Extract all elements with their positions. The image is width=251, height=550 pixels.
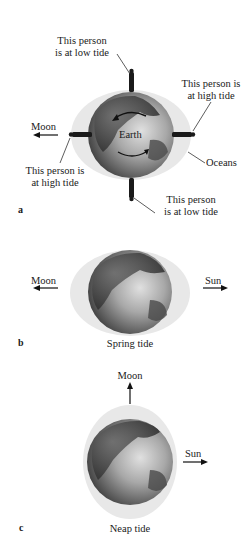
label-line: This person is bbox=[176, 78, 246, 90]
panel-b-diagram bbox=[33, 250, 228, 336]
label-line: This person bbox=[52, 35, 112, 47]
label-line: This person bbox=[160, 194, 222, 206]
oceans-label: Oceans bbox=[206, 157, 237, 169]
earth-label: Earth bbox=[119, 129, 142, 141]
person-right bbox=[172, 132, 195, 137]
caption-neap-tide: Neap tide bbox=[95, 523, 165, 535]
label-line: at high tide bbox=[176, 90, 246, 102]
person-left bbox=[69, 132, 92, 137]
bottom-person-label: This person is at low tide bbox=[160, 194, 222, 217]
person-top bbox=[129, 69, 134, 92]
label-line: is at low tide bbox=[160, 206, 222, 218]
person-bottom bbox=[129, 178, 134, 201]
label-line: at high tide bbox=[20, 177, 90, 189]
left-person-label: This person is at high tide bbox=[20, 165, 90, 188]
right-person-label: This person is at high tide bbox=[176, 78, 246, 101]
panel-letter-a: a bbox=[18, 204, 23, 215]
moon-label-b: Moon bbox=[31, 275, 56, 287]
panel-letter-b: b bbox=[18, 337, 24, 348]
moon-label-c: Moon bbox=[110, 370, 150, 382]
label-line: This person is bbox=[20, 165, 90, 177]
sun-label-c: Sun bbox=[185, 448, 201, 460]
moon-label-a: Moon bbox=[31, 121, 56, 133]
sun-label-b: Sun bbox=[205, 275, 221, 287]
panel-letter-c: c bbox=[19, 522, 23, 533]
caption-spring-tide: Spring tide bbox=[95, 338, 165, 350]
top-person-label: This person is at low tide bbox=[52, 35, 112, 58]
label-line: is at low tide bbox=[52, 47, 112, 59]
